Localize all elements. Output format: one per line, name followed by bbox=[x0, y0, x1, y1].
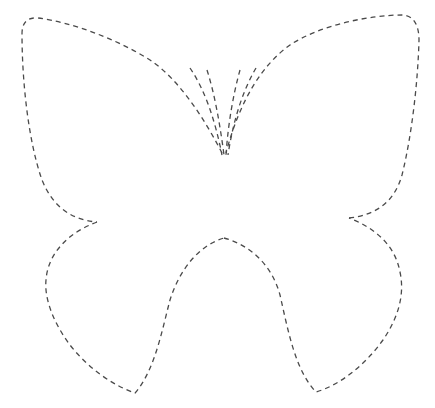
left-lower-wing bbox=[46, 222, 224, 393]
left-antenna-inner bbox=[207, 70, 224, 155]
left-upper-wing bbox=[22, 18, 222, 222]
right-lower-wing bbox=[224, 218, 402, 392]
left-antenna-outer bbox=[190, 68, 222, 155]
butterfly-template-canvas: Butterfly dashed outline template bbox=[0, 0, 435, 408]
butterfly-outline-icon bbox=[0, 0, 435, 408]
right-antenna-outer bbox=[228, 68, 256, 155]
right-upper-wing bbox=[226, 15, 419, 218]
